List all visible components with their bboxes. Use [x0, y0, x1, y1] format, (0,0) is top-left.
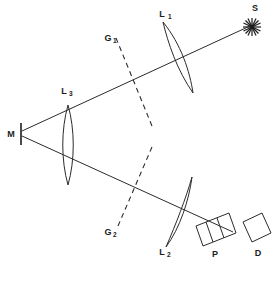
- lower-beam-line: [22, 136, 233, 232]
- optical-diagram-figure: S L 1 G 1 L 3 M G 2 L 2: [0, 0, 277, 284]
- detector-block: [243, 213, 271, 242]
- lower-beam-path: [22, 136, 233, 232]
- grating-2-label-subscript: 2: [113, 231, 117, 238]
- optical-diagram-canvas: S L 1 G 1 L 3 M G 2 L 2: [0, 0, 277, 284]
- lens-2-label-subscript: 2: [167, 251, 171, 258]
- upper-beam-line: [22, 26, 250, 131]
- grating-2-label: G: [104, 227, 111, 237]
- detector-label: D: [255, 248, 262, 258]
- mirror-label: M: [7, 129, 15, 139]
- lens-3-label: L: [61, 86, 67, 96]
- lens-3-shape: [63, 105, 74, 185]
- upper-beam-path: [22, 26, 250, 131]
- grating-1-label: G: [104, 33, 111, 43]
- grating-1-label-subscript: 1: [113, 37, 117, 44]
- lens-1-label: L: [159, 9, 165, 19]
- lens-1-label-subscript: 1: [168, 13, 172, 20]
- grating-2-plane: [118, 147, 152, 226]
- lens-3-label-subscript: 3: [69, 90, 73, 97]
- source-label: S: [252, 3, 258, 13]
- source-star-icon: [243, 18, 261, 36]
- lens-2-label: L: [159, 247, 165, 257]
- polarizer-label: P: [212, 249, 218, 259]
- grating-1-plane: [116, 38, 152, 126]
- lens-1-shape: [163, 22, 193, 93]
